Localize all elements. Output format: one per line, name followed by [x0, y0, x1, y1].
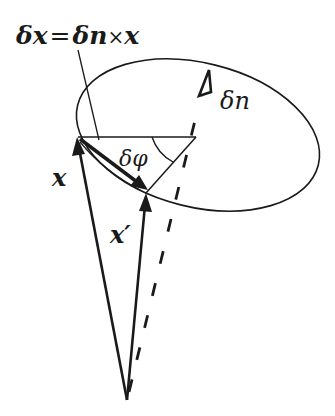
x-vector: [79, 148, 127, 400]
rotated-radius-line: [146, 137, 196, 193]
delta-n-arrowhead-open: [199, 70, 211, 96]
x-label: x: [51, 163, 67, 192]
angle-arc: [152, 137, 173, 162]
rotation-ellipse: [60, 35, 335, 235]
x-prime-label: x′: [109, 220, 131, 249]
x-prime-vector-arrowhead: [139, 193, 152, 212]
delta-phi-label: δφ: [119, 146, 148, 171]
equation-label: δx=δn×x: [15, 21, 140, 50]
rotation-diagram: δx=δn×x δn δφ x x′: [0, 0, 335, 416]
delta-n-label: δn: [220, 87, 250, 115]
